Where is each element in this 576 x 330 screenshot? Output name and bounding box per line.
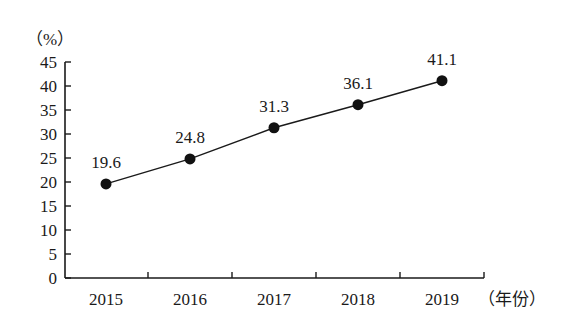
y-tick-label: 5 — [49, 245, 58, 264]
y-tick-label: 40 — [40, 77, 57, 96]
x-axis-unit-label: （年份） — [478, 290, 546, 309]
x-tick-label: 2017 — [257, 290, 292, 309]
y-tick-label: 35 — [40, 101, 57, 120]
y-tick-label: 30 — [40, 125, 57, 144]
y-axis-unit-label: （%） — [26, 30, 74, 49]
data-point-marker — [185, 153, 196, 164]
x-tick-label: 2016 — [173, 290, 207, 309]
x-tick-label: 2019 — [425, 290, 459, 309]
y-tick-label: 15 — [40, 197, 57, 216]
y-tick-label: 0 — [49, 269, 58, 288]
data-point-label: 36.1 — [343, 74, 373, 93]
data-series: 19.624.831.336.141.1 — [91, 50, 457, 190]
data-point-label: 24.8 — [175, 128, 205, 147]
x-tick-label: 2015 — [89, 290, 123, 309]
y-tick-label: 10 — [40, 221, 57, 240]
y-tick-label: 25 — [40, 149, 57, 168]
y-axis: 051015202530354045 — [40, 53, 71, 288]
data-point-label: 31.3 — [259, 97, 289, 116]
data-point-marker — [101, 178, 112, 189]
y-tick-label: 20 — [40, 173, 57, 192]
x-tick-label: 2018 — [341, 290, 375, 309]
data-point-marker — [437, 75, 448, 86]
x-axis: 20152016201720182019 — [65, 272, 484, 309]
line-chart: （%） 051015202530354045 20152016201720182… — [0, 0, 576, 330]
data-point-label: 19.6 — [91, 153, 121, 172]
data-point-marker — [353, 99, 364, 110]
data-point-marker — [269, 122, 280, 133]
y-tick-label: 45 — [40, 53, 57, 72]
data-point-label: 41.1 — [427, 50, 457, 69]
